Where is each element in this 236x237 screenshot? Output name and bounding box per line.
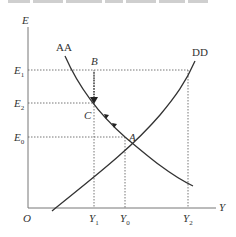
aa-curve (65, 56, 193, 186)
y2-label: Y2 (183, 212, 193, 227)
point-c-label: C (84, 109, 92, 121)
aa-label: AA (56, 41, 72, 53)
e0-label: E0 (13, 131, 25, 146)
y1-label: Y1 (89, 212, 99, 227)
dd-label: DD (192, 46, 208, 58)
x-axis-label: Y (219, 201, 227, 213)
y-axis-label: E (21, 14, 29, 26)
e1-label: E1 (13, 64, 25, 79)
aa-dd-diagram: E Y O E1 E2 E0 Y1 Y0 Y2 AA DD A B C (0, 0, 236, 237)
guide-lines (28, 70, 188, 208)
origin-label: O (23, 212, 31, 224)
point-b-label: B (91, 55, 98, 67)
e2-label: E2 (13, 97, 25, 112)
axes (28, 27, 216, 208)
y0-label: Y0 (120, 212, 130, 227)
point-a-label: A (128, 131, 136, 143)
